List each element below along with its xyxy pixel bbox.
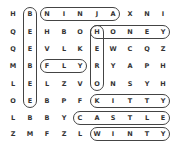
- grid-cell[interactable]: Q: [7, 43, 19, 55]
- grid-cell[interactable]: H: [157, 78, 169, 90]
- grid-cell[interactable]: I: [58, 8, 70, 20]
- grid-cell[interactable]: V: [74, 78, 86, 90]
- grid-cell[interactable]: F: [41, 60, 53, 72]
- grid-cell[interactable]: C: [124, 43, 136, 55]
- grid-cell[interactable]: I: [107, 128, 119, 140]
- grid-cell[interactable]: E: [91, 43, 103, 55]
- grid-cell[interactable]: O: [7, 95, 19, 107]
- grid-cell[interactable]: E: [157, 112, 169, 124]
- grid-cell[interactable]: E: [24, 78, 36, 90]
- grid-cell[interactable]: N: [41, 8, 53, 20]
- grid-cell[interactable]: W: [107, 43, 119, 55]
- grid-cell[interactable]: A: [107, 8, 119, 20]
- grid-cell[interactable]: T: [141, 128, 153, 140]
- grid-cell[interactable]: T: [141, 95, 153, 107]
- grid-cell[interactable]: H: [41, 26, 53, 38]
- grid-cell[interactable]: N: [107, 78, 119, 90]
- grid-cell[interactable]: X: [124, 8, 136, 20]
- grid-cell[interactable]: B: [41, 112, 53, 124]
- grid-cell[interactable]: K: [91, 95, 103, 107]
- grid-cell[interactable]: B: [24, 112, 36, 124]
- grid-cell[interactable]: Q: [141, 43, 153, 55]
- grid-cell[interactable]: O: [74, 26, 86, 38]
- grid-cell[interactable]: E: [24, 26, 36, 38]
- grid-cell[interactable]: Z: [58, 128, 70, 140]
- grid-cell[interactable]: I: [157, 8, 169, 20]
- grid-cell[interactable]: Y: [107, 60, 119, 72]
- grid-cell[interactable]: B: [58, 26, 70, 38]
- grid-cell[interactable]: N: [141, 8, 153, 20]
- grid-cell[interactable]: Y: [157, 95, 169, 107]
- grid-cell[interactable]: B: [41, 95, 53, 107]
- grid-cell[interactable]: I: [107, 95, 119, 107]
- grid-cell[interactable]: L: [7, 112, 19, 124]
- grid-cell[interactable]: L: [141, 112, 153, 124]
- grid-cell[interactable]: K: [74, 43, 86, 55]
- word-search-grid: HBNINJAXNIQEHBOHONEYQEVLKEWCQZMBFLYRYAPH…: [0, 0, 184, 150]
- grid-cell[interactable]: N: [124, 128, 136, 140]
- grid-cell[interactable]: T: [124, 112, 136, 124]
- grid-cell[interactable]: J: [91, 8, 103, 20]
- grid-cell[interactable]: Q: [7, 26, 19, 38]
- grid-cell[interactable]: Y: [74, 60, 86, 72]
- grid-cell[interactable]: E: [141, 26, 153, 38]
- grid-cell[interactable]: L: [41, 78, 53, 90]
- grid-cell[interactable]: E: [24, 95, 36, 107]
- grid-cell[interactable]: F: [74, 95, 86, 107]
- grid-cell[interactable]: Z: [157, 43, 169, 55]
- grid-cell[interactable]: Z: [58, 78, 70, 90]
- grid-cell[interactable]: A: [124, 60, 136, 72]
- grid-cell[interactable]: B: [24, 60, 36, 72]
- found-word-beebee: [23, 7, 37, 108]
- grid-cell[interactable]: E: [24, 43, 36, 55]
- grid-cell[interactable]: B: [24, 8, 36, 20]
- grid-cell[interactable]: O: [107, 26, 119, 38]
- grid-cell[interactable]: N: [124, 26, 136, 38]
- grid-cell[interactable]: P: [58, 95, 70, 107]
- grid-cell[interactable]: A: [91, 112, 103, 124]
- grid-cell[interactable]: L: [7, 78, 19, 90]
- grid-cell[interactable]: L: [58, 43, 70, 55]
- grid-cell[interactable]: R: [91, 60, 103, 72]
- grid-cell[interactable]: M: [7, 60, 19, 72]
- grid-cell[interactable]: F: [41, 128, 53, 140]
- grid-cell[interactable]: L: [74, 128, 86, 140]
- grid-cell[interactable]: M: [24, 128, 36, 140]
- grid-cell[interactable]: S: [107, 112, 119, 124]
- grid-cell[interactable]: H: [157, 60, 169, 72]
- grid-cell[interactable]: Y: [58, 112, 70, 124]
- grid-cell[interactable]: H: [7, 8, 19, 20]
- grid-cell[interactable]: Y: [157, 26, 169, 38]
- grid-cell[interactable]: V: [41, 43, 53, 55]
- grid-cell[interactable]: Y: [141, 78, 153, 90]
- grid-cell[interactable]: P: [141, 60, 153, 72]
- grid-cell[interactable]: T: [124, 95, 136, 107]
- grid-cell[interactable]: H: [91, 26, 103, 38]
- grid-cell[interactable]: C: [74, 112, 86, 124]
- found-word-castle: [73, 111, 170, 125]
- grid-cell[interactable]: L: [58, 60, 70, 72]
- grid-cell[interactable]: O: [91, 78, 103, 90]
- grid-cell[interactable]: Z: [7, 128, 19, 140]
- grid-cell[interactable]: Y: [157, 128, 169, 140]
- grid-cell[interactable]: N: [74, 8, 86, 20]
- grid-cell[interactable]: S: [124, 78, 136, 90]
- grid-cell[interactable]: W: [91, 128, 103, 140]
